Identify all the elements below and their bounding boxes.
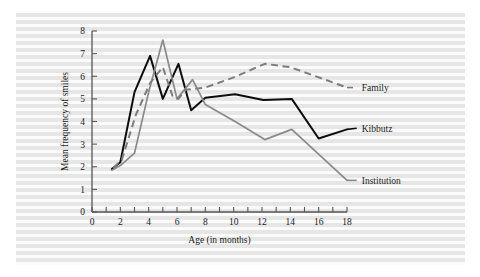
x-axis-title: Age (in months) [188,235,250,246]
x-axis-tick-label: 4 [146,217,151,227]
x-axis-tick-label: 0 [90,217,95,227]
y-axis-title: Mean frequency of smiles [60,72,70,171]
figure-container: 012345678024681012141618Age (in months)M… [0,0,480,277]
x-axis-tick-label: 2 [118,217,123,227]
y-axis-tick-label: 3 [80,140,85,150]
series-line-family [113,64,347,168]
x-axis-tick-label: 18 [342,217,352,227]
series-label-kibbutz: Kibbutz [362,124,393,134]
series-label-institution: Institution [362,176,401,186]
x-axis-tick-label: 10 [229,217,239,227]
y-axis-tick-label: 0 [80,207,85,217]
y-axis-tick-label: 6 [80,72,85,82]
x-axis-tick-label: 14 [286,217,296,227]
series-leader-kibbutz [347,128,357,129]
series-line-kibbutz [112,56,347,169]
y-axis-tick-label: 4 [80,117,85,127]
y-axis-tick-label: 5 [80,94,85,104]
y-axis-tick-label: 2 [80,162,85,172]
x-axis-tick-label: 12 [257,217,267,227]
y-axis-tick-label: 7 [80,49,85,59]
series-label-family: Family [362,83,389,93]
x-axis-tick-label: 6 [175,217,180,227]
y-axis-tick-label: 1 [80,185,85,195]
x-axis-tick-label: 8 [203,217,208,227]
line-chart: 012345678024681012141618Age (in months)M… [0,0,480,277]
y-axis-tick-label: 8 [80,26,85,36]
x-axis-tick-label: 16 [314,217,324,227]
